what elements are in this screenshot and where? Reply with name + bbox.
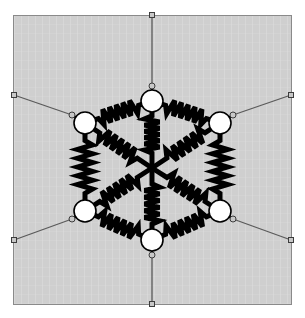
ring-resistor-r23 — [213, 123, 228, 211]
lead-joint-j1 — [149, 83, 155, 89]
network-node-lower-left — [74, 200, 96, 222]
terminal-square-t3 — [289, 238, 294, 243]
terminal-square-t6 — [12, 93, 17, 98]
terminal-lead-t6 — [14, 95, 72, 115]
terminal-square-t5 — [12, 238, 17, 243]
terminal-square-t1 — [150, 13, 155, 18]
terminal-lead-t3 — [233, 219, 291, 240]
network-node-upper-right — [209, 112, 231, 134]
lead-joint-j3 — [230, 216, 236, 222]
lead-joint-j5 — [69, 216, 75, 222]
figure-canvas — [0, 0, 305, 318]
terminal-square-t2 — [289, 93, 294, 98]
network-node-upper-left — [74, 112, 96, 134]
terminal-lead-t2 — [233, 95, 291, 115]
network-node-bottom — [141, 229, 163, 251]
terminal-lead-t5 — [14, 219, 72, 240]
ring-resistor-r56 — [78, 123, 93, 211]
network-node-top — [141, 90, 163, 112]
lead-joint-j6 — [69, 112, 75, 118]
lead-joint-j2 — [230, 112, 236, 118]
terminal-square-t4 — [150, 302, 155, 307]
resistor-network-diagram — [0, 0, 305, 318]
network-node-lower-right — [209, 200, 231, 222]
lead-joint-j4 — [149, 252, 155, 258]
